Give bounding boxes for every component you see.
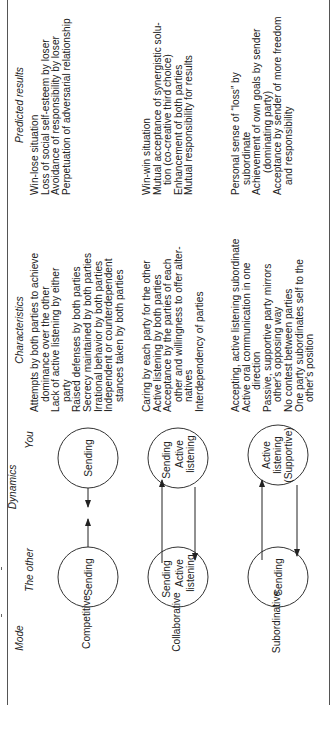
characteristic-line: No contest between parties	[284, 239, 295, 412]
characteristic-line: other's position	[305, 239, 316, 412]
circle-label: Sending	[273, 558, 284, 596]
characteristic-line: Secrecy maintained by both parties	[83, 253, 94, 412]
circle-label: Sending	[83, 439, 94, 477]
characteristic-line: Interdependency of parties	[195, 246, 206, 412]
characteristics-competitive: Attempts by both parties to achieve domi…	[30, 253, 125, 412]
results-subordinative: Personal sense of “loss” by subordinate …	[231, 17, 295, 195]
circle-label: listening	[272, 436, 283, 474]
results-competitive: Win-lose situation Loss of social self-e…	[30, 18, 72, 195]
circle-label: Sending	[161, 441, 172, 479]
circle-label: Active	[174, 440, 185, 468]
circle-label: Active	[261, 441, 272, 469]
circle-label: Sending	[83, 558, 94, 596]
characteristics-collaborative: Caring by each party for the other Activ…	[142, 246, 206, 412]
circle-label: Active	[174, 559, 185, 587]
result-line: Win-lose situation	[30, 18, 41, 195]
circle-label: listening	[185, 554, 196, 592]
circle-label: listening	[185, 435, 196, 473]
characteristic-line: Attempts by both parties to achieve	[30, 253, 41, 412]
circle-label: (Supportive)	[283, 427, 294, 483]
rotated-table-page: Mode Dynamics The other You Characterist…	[0, 0, 331, 745]
result-line: Win-win situation	[142, 22, 153, 195]
characteristic-line: Accepting, active listening subordinate	[231, 239, 242, 412]
result-line: Perpetuation of adversarial relationship	[62, 18, 73, 195]
characteristics-subordinative: Accepting, active listening subordinate …	[231, 239, 316, 412]
characteristic-line: stances taken by both parties	[115, 253, 126, 412]
circle-label: Sending	[161, 560, 172, 598]
result-line: Mutual responsibility for results	[184, 22, 195, 195]
result-line: and responsibility	[284, 17, 295, 195]
characteristic-line: Caring by each party for the other	[142, 246, 153, 412]
result-line: Personal sense of “loss” by	[231, 17, 242, 195]
results-collaborative: Win-win situation Mutual acceptance of s…	[142, 22, 195, 195]
